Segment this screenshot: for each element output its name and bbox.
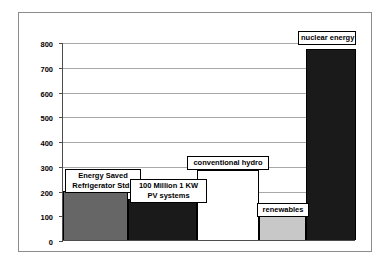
bar-label-line-2: PV systems: [133, 191, 204, 201]
y-tick-label-300: 300: [40, 163, 53, 172]
y-tick-mark-0: 0: [59, 241, 63, 242]
bar-label-line-1: 100 Million 1 KW: [133, 181, 204, 191]
y-tick-label-600: 600: [40, 89, 53, 98]
bar-nuclear-energy[interactable]: [306, 49, 356, 240]
plot-area: 800 700 600 500 400 300 200 100: [62, 43, 355, 241]
y-tick-label-0: 0: [49, 238, 53, 247]
chart-figure-frame: Billion kWh/year 800 700 600 500 400 300…: [18, 12, 372, 252]
bar-label-line-2: Refrigerator Stds: [68, 181, 138, 191]
bar-label-conventional-hydro: conventional hydro: [187, 156, 269, 170]
y-tick-label-200: 200: [40, 188, 53, 197]
y-tick-label-100: 100: [40, 213, 53, 222]
bar-renewables[interactable]: [259, 214, 306, 240]
y-tick-label-400: 400: [40, 139, 53, 148]
bars-layer: [63, 43, 355, 240]
bar-pv-systems[interactable]: [128, 199, 197, 240]
bar-label-pv-systems: 100 Million 1 KW PV systems: [130, 179, 207, 203]
bar-label-nuclear-energy: nuclear energy: [298, 31, 356, 45]
bar-energy-saved-refrigerator-stds[interactable]: [63, 191, 128, 240]
bar-label-line-1: Energy Saved: [68, 171, 138, 181]
y-tick-label-800: 800: [40, 40, 53, 49]
bar-label-renewables: renewables: [257, 203, 309, 217]
y-tick-label-500: 500: [40, 114, 53, 123]
y-tick-label-700: 700: [40, 64, 53, 73]
